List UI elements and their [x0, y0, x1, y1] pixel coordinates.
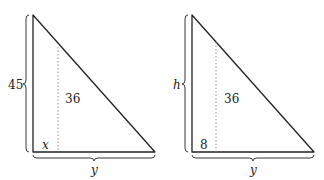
right-base-label: y — [249, 163, 257, 177]
left-triangle — [33, 15, 155, 152]
right-figure: h 36 8 y — [173, 15, 314, 177]
right-triangle — [192, 15, 314, 152]
left-height-label: 45 — [8, 78, 23, 92]
diagram-canvas: 45 36 x y h 36 8 y — [0, 0, 324, 180]
left-figure: 45 36 x y — [8, 15, 155, 177]
right-segment-label: 36 — [224, 92, 239, 106]
left-vertical-brace — [23, 15, 29, 152]
left-corner-label: x — [42, 138, 49, 152]
right-corner-label: 8 — [200, 138, 208, 152]
right-vertical-brace — [182, 15, 188, 152]
right-horizontal-brace — [192, 155, 314, 161]
left-base-label: y — [90, 163, 98, 177]
left-segment-label: 36 — [65, 92, 80, 106]
left-horizontal-brace — [33, 155, 155, 161]
right-height-label: h — [173, 78, 181, 92]
